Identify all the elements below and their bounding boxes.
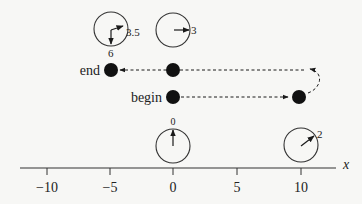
end-label: end	[80, 63, 100, 78]
begin-point	[166, 90, 180, 104]
dial-extra-label: 6	[108, 47, 114, 59]
dial-value-label: 3	[191, 24, 197, 36]
points: end begin	[80, 63, 306, 105]
dial-bottom-middle: 0	[156, 116, 190, 163]
axis-label: x	[342, 157, 350, 172]
tick-label: 0	[170, 180, 177, 195]
dial-bottom-right: 2	[284, 128, 323, 162]
dial-top-middle: 3	[156, 13, 197, 47]
end-point	[104, 63, 118, 77]
tick-label: −5	[103, 180, 118, 195]
begin-label: begin	[131, 90, 162, 105]
dial-value-label: 0	[171, 116, 176, 127]
middle-top-point	[166, 63, 180, 77]
x-axis: −10 −5 0 5 10 x	[20, 157, 350, 195]
turnaround-arrow	[308, 69, 320, 93]
right-point	[292, 90, 306, 104]
dial-value-label: 3.5	[126, 26, 140, 38]
dial-top-left: 3.5 6	[94, 12, 140, 59]
dial-value-label: 2	[317, 128, 323, 140]
axis-ticks	[47, 168, 301, 175]
displacement-diagram: −10 −5 0 5 10 x 3.5 6 3 0 2	[0, 0, 362, 204]
tick-label: 10	[294, 180, 308, 195]
tick-label: −10	[36, 180, 58, 195]
tick-label: 5	[234, 180, 241, 195]
